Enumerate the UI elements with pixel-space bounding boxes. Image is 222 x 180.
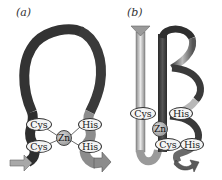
zinc-finger-figure: (a) (b) Cys Cys His His Zn Cys Cys His H… — [0, 0, 222, 180]
panel-b-his-top: His — [169, 107, 193, 120]
panel-a-cys-top: Cys — [26, 118, 52, 131]
panel-b-cys-top: Cys — [130, 107, 156, 120]
diagram-artwork — [0, 0, 222, 180]
panel-a-his-top: His — [78, 118, 102, 131]
panel-a-cys-bottom: Cys — [26, 140, 52, 153]
panel-b-zn-ion: Zn — [152, 121, 168, 137]
panel-a-zn-ion: Zn — [56, 130, 72, 146]
panel-b-cys-bottom: Cys — [155, 138, 181, 151]
panel-a-his-bottom: His — [78, 140, 102, 153]
panel-b-his-bottom: His — [180, 138, 204, 151]
panel-b-label: (b) — [127, 6, 143, 19]
panel-a-label: (a) — [16, 6, 31, 19]
